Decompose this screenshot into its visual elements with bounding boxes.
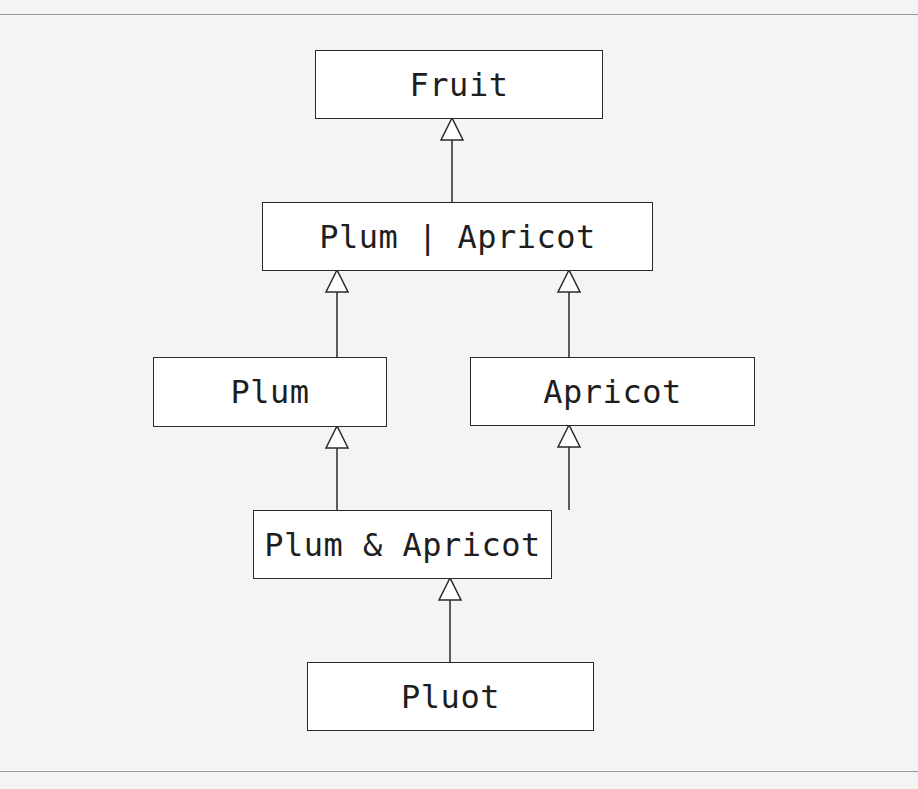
node-label: Plum | Apricot (319, 218, 596, 256)
hollow-triangle-arrow-icon (441, 118, 463, 140)
node-label: Fruit (410, 66, 509, 104)
hollow-triangle-arrow-icon (558, 270, 580, 292)
edge-pluot-to-plum-and-apricot (439, 578, 461, 662)
edge-plum-and-apricot-to-apricot (558, 425, 580, 510)
node-label: Pluot (401, 678, 500, 716)
node-apricot: Apricot (470, 357, 755, 426)
edge-plum-or-apricot-to-fruit (441, 118, 463, 202)
node-plum-and-apricot: Plum & Apricot (253, 510, 552, 579)
node-fruit: Fruit (315, 50, 603, 119)
edge-plum-and-apricot-to-plum (326, 426, 348, 510)
node-label: Apricot (543, 373, 681, 411)
node-plum: Plum (153, 357, 387, 427)
hollow-triangle-arrow-icon (439, 578, 461, 600)
node-pluot: Pluot (307, 662, 594, 731)
hollow-triangle-arrow-icon (558, 425, 580, 447)
edge-plum-to-plum-or-apricot (326, 270, 348, 357)
node-label: Plum & Apricot (264, 526, 541, 564)
hollow-triangle-arrow-icon (326, 270, 348, 292)
hollow-triangle-arrow-icon (326, 426, 348, 448)
edge-apricot-to-plum-or-apricot (558, 270, 580, 357)
node-plum-or-apricot: Plum | Apricot (262, 202, 653, 271)
node-label: Plum (230, 373, 309, 411)
